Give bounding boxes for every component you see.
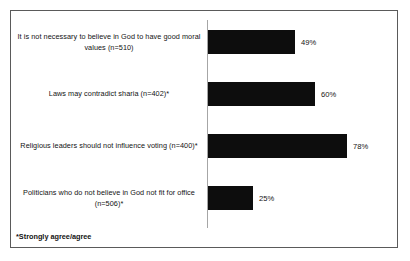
bar-value-label: 78% — [353, 142, 368, 151]
category-label: Laws may contradict sharia (n=402)* — [15, 89, 203, 100]
bar-value-label: 25% — [259, 194, 274, 203]
plot-area: It is not necessary to believe in God to… — [11, 11, 397, 247]
category-label: Politicians who do not believe in God no… — [15, 188, 203, 209]
bar-row: Religious leaders should not influence v… — [11, 124, 397, 168]
bar-group: 49% — [208, 30, 316, 54]
chart-figure: It is not necessary to believe in God to… — [10, 10, 398, 248]
bar-value-label: 49% — [301, 38, 316, 47]
bar-group: 60% — [208, 82, 336, 106]
bar[interactable] — [208, 186, 253, 210]
category-label: Religious leaders should not influence v… — [15, 141, 203, 152]
bar-group: 78% — [208, 134, 368, 158]
bar-row: Politicians who do not believe in God no… — [11, 176, 397, 220]
bar[interactable] — [208, 82, 315, 106]
bar[interactable] — [208, 134, 347, 158]
bar-value-label: 60% — [321, 90, 336, 99]
bar[interactable] — [208, 30, 295, 54]
category-label: It is not necessary to believe in God to… — [15, 32, 203, 53]
chart-footnote: *Strongly agree/agree — [16, 232, 91, 241]
bar-row: It is not necessary to believe in God to… — [11, 20, 397, 64]
bar-group: 25% — [208, 186, 274, 210]
bar-row: Laws may contradict sharia (n=402)* 60% — [11, 72, 397, 116]
